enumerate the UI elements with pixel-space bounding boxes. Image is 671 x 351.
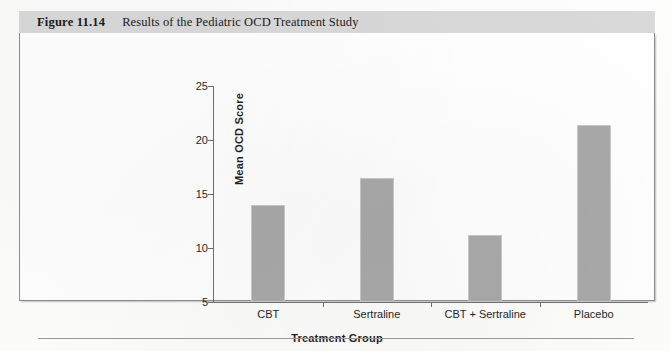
x-tick-label: Sertraline <box>353 308 400 320</box>
figure-caption-text: Results of the Pediatric OCD Treatment S… <box>122 15 358 30</box>
bar-chart: Mean OCD Score 510152025 CBTSertralineCB… <box>20 33 654 300</box>
x-tick-mark <box>540 302 541 307</box>
figure-block: Figure 11.14 Results of the Pediatric OC… <box>19 11 655 301</box>
x-tick-mark <box>323 302 324 307</box>
y-tick-label: 5 <box>182 296 208 308</box>
y-tick-mark <box>208 248 213 249</box>
y-tick-label: 15 <box>182 188 208 200</box>
y-tick-label: 10 <box>182 242 208 254</box>
y-tick-mark <box>208 302 213 303</box>
bar <box>468 235 502 302</box>
figure-caption-band: Figure 11.14 Results of the Pediatric OC… <box>19 11 655 33</box>
bar <box>577 125 611 302</box>
y-tick-label: 20 <box>182 134 208 146</box>
y-axis-tick-labels: 510152025 <box>180 33 208 301</box>
y-axis-line <box>213 86 214 302</box>
y-tick-label: 25 <box>182 80 208 92</box>
x-tick-label: CBT <box>257 308 279 320</box>
x-tick-label: Placebo <box>574 308 614 320</box>
y-tick-mark <box>208 86 213 87</box>
x-tick-label: CBT + Sertraline <box>445 308 526 320</box>
bar <box>360 178 394 302</box>
bar <box>251 205 285 302</box>
x-tick-mark <box>431 302 432 307</box>
page-footer-rule <box>38 338 634 339</box>
y-tick-mark <box>208 140 213 141</box>
figure-number-label: Figure 11.14 <box>37 15 105 30</box>
y-axis-label: Mean OCD Score <box>233 64 245 214</box>
plot-frame: Mean OCD Score 510152025 CBTSertralineCB… <box>19 33 655 301</box>
y-tick-mark <box>208 194 213 195</box>
